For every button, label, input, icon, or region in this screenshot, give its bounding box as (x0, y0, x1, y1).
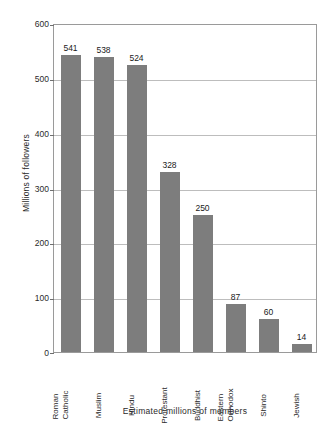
bar-value-label: 541 (63, 43, 77, 53)
bar-chart: Millions of followers 010020030040050060… (0, 0, 335, 426)
plot-area: 541538524328250876014 (53, 24, 317, 353)
y-axis-tick-label: 500 (23, 74, 49, 84)
bar-rect (226, 304, 246, 352)
x-axis-category: EasternOrthodox (218, 353, 251, 405)
y-axis-tick-label: 100 (23, 293, 49, 303)
bar-value-label: 14 (297, 332, 306, 342)
bar-value-label: 60 (264, 307, 273, 317)
x-axis-category: Buddhist (185, 353, 218, 405)
y-axis-tick-label: 200 (23, 238, 49, 248)
x-axis-category: Muslim (86, 353, 119, 405)
bar[interactable]: 328 (160, 25, 180, 352)
bar-value-label: 524 (129, 53, 143, 63)
bar[interactable]: 538 (94, 25, 114, 352)
y-axis-tick-label: 400 (23, 129, 49, 139)
bar[interactable]: 60 (259, 25, 279, 352)
x-axis-category: Shinto (251, 353, 284, 405)
x-axis-category-labels: RomanCatholicMuslimHinduProtestantBuddhi… (53, 353, 317, 405)
bar-series: 541538524328250876014 (54, 25, 316, 352)
bar-rect (94, 57, 114, 352)
bar-value-label: 538 (96, 45, 110, 55)
bar-value-label: 250 (195, 203, 209, 213)
y-axis-tick-labels: 0100200300400500600 (23, 0, 49, 426)
x-axis-category: Jewish (284, 353, 317, 405)
x-axis-category: Protestant (152, 353, 185, 405)
bar-rect (292, 344, 312, 352)
bar[interactable]: 524 (127, 25, 147, 352)
bar-value-label: 87 (231, 292, 240, 302)
bar[interactable]: 87 (226, 25, 246, 352)
bar[interactable]: 250 (193, 25, 213, 352)
x-axis-title: Estimated millions of members (53, 406, 317, 416)
x-axis-category: Hindu (119, 353, 152, 405)
bar-rect (61, 55, 81, 352)
bar-value-label: 328 (162, 160, 176, 170)
x-axis-category-label: Protestant (159, 387, 169, 423)
bar-rect (160, 172, 180, 352)
y-axis-tick-label: 300 (23, 184, 49, 194)
bar[interactable]: 541 (61, 25, 81, 352)
x-axis-category-label: EasternOrthodox (216, 389, 235, 422)
bar-rect (193, 215, 213, 352)
y-axis-tick-label: 600 (23, 19, 49, 29)
bar-rect (259, 319, 279, 352)
y-axis-tick-label: 0 (23, 348, 49, 358)
bar-rect (127, 65, 147, 352)
x-axis-category: RomanCatholic (53, 353, 86, 405)
bar[interactable]: 14 (292, 25, 312, 352)
